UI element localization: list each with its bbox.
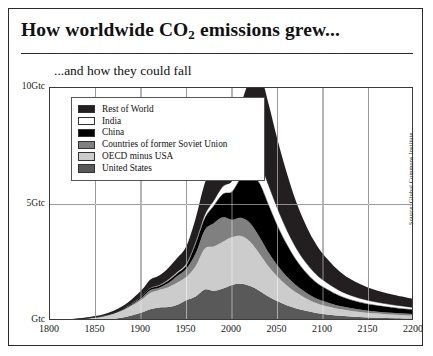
legend-item: Rest of World: [78, 103, 258, 115]
legend-item: China: [78, 127, 258, 139]
x-axis-tick-label: 2100: [312, 323, 332, 334]
title-prefix: How worldwide CO: [21, 19, 188, 40]
legend-swatch: [78, 129, 95, 138]
y-axis-tick-label: 10Gtc: [22, 81, 45, 91]
legend-item: India: [78, 115, 258, 127]
legend-label: India: [102, 116, 121, 127]
legend-swatch: [78, 117, 95, 126]
x-axis-tick-label: 1800: [39, 323, 59, 334]
legend-swatch: [78, 141, 95, 150]
legend-item: OECD minus USA: [78, 151, 258, 163]
x-axis-tick-label: 1850: [85, 323, 105, 334]
legend-label: OECD minus USA: [102, 151, 173, 162]
plot-wrapper: Rest of WorldIndiaChinaCountries of form…: [49, 87, 413, 320]
title-divider: [21, 53, 413, 54]
legend-label: United States: [102, 163, 152, 174]
legend-swatch: [78, 152, 95, 161]
title-suffix: emissions grew...: [195, 19, 340, 40]
legend-item: Countries of former Soviet Union: [78, 139, 258, 151]
chart-subtitle: ...and how they could fall: [54, 63, 192, 79]
x-axis-tick-label: 2050: [267, 323, 287, 334]
legend-label: Countries of former Soviet Union: [102, 139, 228, 150]
legend-swatch: [78, 105, 95, 114]
legend-swatch: [78, 164, 95, 173]
chart-card: How worldwide CO2 emissions grew... ...a…: [8, 8, 423, 346]
source-note: Source: Global Commons Institute: [407, 132, 414, 225]
legend-label: Rest of World: [102, 104, 154, 115]
y-axis-labels: Gtc5Gtc10Gtc: [9, 87, 45, 320]
legend-label: China: [102, 127, 124, 138]
legend-item: United States: [78, 163, 258, 175]
x-axis-labels: 180018501900195020002050210021502200: [49, 323, 413, 339]
x-axis-tick-label: 2200: [403, 323, 423, 334]
x-axis-tick-label: 1950: [176, 323, 196, 334]
legend: Rest of WorldIndiaChinaCountries of form…: [71, 97, 265, 181]
x-axis-tick-label: 2000: [221, 323, 241, 334]
y-axis-tick-label: 5Gtc: [27, 198, 45, 208]
page-title: How worldwide CO2 emissions grew...: [21, 19, 413, 43]
title-subscript: 2: [188, 27, 195, 42]
x-axis-tick-label: 2150: [358, 323, 378, 334]
x-axis-tick-label: 1900: [130, 323, 150, 334]
